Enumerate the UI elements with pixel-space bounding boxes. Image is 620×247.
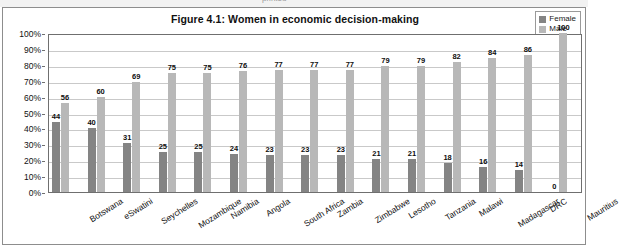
bar-male[interactable] xyxy=(417,66,425,192)
bar-value-label-male: 76 xyxy=(235,61,251,70)
bar-value-label-male: 69 xyxy=(128,72,144,81)
bar-group[interactable]: 0100 xyxy=(547,35,583,192)
y-axis-tick-mark xyxy=(42,193,45,194)
bar-value-label-male: 60 xyxy=(93,87,109,96)
y-axis-tick-label: 90% xyxy=(24,45,41,55)
bar-female[interactable] xyxy=(230,154,238,192)
y-axis-tick-label: 30% xyxy=(24,140,41,150)
bar-group[interactable]: 2377 xyxy=(298,35,334,192)
bar-value-label-male: 56 xyxy=(57,93,73,102)
bar-female[interactable] xyxy=(52,122,60,192)
x-axis-label-angola: Angola xyxy=(264,196,292,219)
bar-group[interactable]: 2179 xyxy=(369,35,405,192)
x-axis-label-mauritius: Mauritius xyxy=(585,196,620,223)
bar-group[interactable]: 2476 xyxy=(227,35,263,192)
x-axis-label-tanzania: Tanzania xyxy=(443,196,477,223)
y-axis: 0%10%20%30%40%50%60%70%80%90%100% xyxy=(3,34,45,193)
bar-value-label-male: 77 xyxy=(271,60,287,69)
bar-male[interactable] xyxy=(203,73,211,192)
y-axis-tick-mark xyxy=(42,82,45,83)
bar-group[interactable]: 2179 xyxy=(405,35,441,192)
y-axis-tick-label: 40% xyxy=(24,124,41,134)
x-axis-label-seychelles: Seychelles xyxy=(159,196,199,226)
y-axis-tick-label: 100% xyxy=(19,29,41,39)
bar-group[interactable]: 1486 xyxy=(512,35,548,192)
y-axis-tick-label: 80% xyxy=(24,61,41,71)
bar-male[interactable] xyxy=(97,97,105,192)
y-axis-tick-mark xyxy=(42,114,45,115)
bar-female[interactable] xyxy=(159,152,167,192)
bar-male[interactable] xyxy=(524,55,532,192)
y-axis-tick-label: 20% xyxy=(24,156,41,166)
bar-male[interactable] xyxy=(559,33,567,192)
bar-group[interactable]: 2377 xyxy=(334,35,370,192)
bar-female[interactable] xyxy=(123,143,131,192)
bar-value-label-male: 84 xyxy=(484,48,500,57)
bar-female[interactable] xyxy=(479,167,487,192)
x-axis: BotswanaeSwatiniSeychellesMozambiqueNami… xyxy=(48,194,582,246)
y-axis-tick-label: 70% xyxy=(24,77,41,87)
bar-value-label-male: 75 xyxy=(164,63,180,72)
y-axis-tick-mark xyxy=(42,161,45,162)
bar-female[interactable] xyxy=(372,159,380,192)
y-axis-tick-mark xyxy=(42,34,45,35)
y-axis-tick-label: 50% xyxy=(24,109,41,119)
bar-male[interactable] xyxy=(61,103,69,192)
y-axis-tick-mark xyxy=(42,50,45,51)
bar-value-label-male: 79 xyxy=(413,56,429,65)
bar-female[interactable] xyxy=(194,152,202,192)
bar-female[interactable] xyxy=(301,155,309,192)
y-axis-tick-label: 10% xyxy=(24,172,41,182)
bar-male[interactable] xyxy=(310,70,318,192)
bar-value-label-male: 75 xyxy=(199,63,215,72)
y-axis-tick-mark xyxy=(42,66,45,67)
bar-male[interactable] xyxy=(453,62,461,192)
y-axis-tick-label: 60% xyxy=(24,93,41,103)
bar-male[interactable] xyxy=(168,73,176,192)
bar-group[interactable]: 2575 xyxy=(156,35,192,192)
chart-container: Figure 4.1: Women in economic decision-m… xyxy=(2,7,586,245)
x-axis-label-eswatini: eSwatini xyxy=(122,196,155,222)
bar-male[interactable] xyxy=(346,70,354,192)
bar-female[interactable] xyxy=(88,128,96,192)
legend-swatch-icon xyxy=(539,26,546,33)
cut-off-header-text: printed xyxy=(262,0,286,3)
legend-swatch-icon xyxy=(539,16,546,23)
bar-value-label-male: 82 xyxy=(449,52,465,61)
bar-female[interactable] xyxy=(408,159,416,192)
bar-female[interactable] xyxy=(337,155,345,192)
bar-group[interactable]: 4060 xyxy=(85,35,121,192)
bar-value-label-male: 100 xyxy=(555,23,571,32)
y-axis-tick-mark xyxy=(42,145,45,146)
bar-group[interactable]: 1882 xyxy=(441,35,477,192)
y-axis-tick-label: 0% xyxy=(29,188,41,198)
bar-value-label-male: 86 xyxy=(520,45,536,54)
x-axis-label-lesotho: Lesotho xyxy=(407,196,438,221)
bar-male[interactable] xyxy=(132,82,140,192)
x-axis-label-botswana: Botswana xyxy=(87,196,124,224)
bar-male[interactable] xyxy=(488,58,496,192)
bar-female[interactable] xyxy=(444,163,452,192)
bar-value-label-male: 79 xyxy=(377,56,393,65)
plot-area: 4456406031692575257524762377237723772179… xyxy=(48,34,582,193)
bar-group[interactable]: 1684 xyxy=(476,35,512,192)
bar-group[interactable]: 2575 xyxy=(191,35,227,192)
bar-female[interactable] xyxy=(515,170,523,192)
y-axis-tick-mark xyxy=(42,98,45,99)
bar-male[interactable] xyxy=(275,70,283,192)
x-axis-label-malawi: Malawi xyxy=(477,196,505,218)
bar-value-label-male: 77 xyxy=(306,60,322,69)
cut-off-header-strip: printed xyxy=(0,0,588,7)
bar-group[interactable]: 2377 xyxy=(263,35,299,192)
bar-male[interactable] xyxy=(239,71,247,192)
x-axis-label-zimbabwe: Zimbabwe xyxy=(373,196,412,225)
chart-title: Figure 4.1: Women in economic decision-m… xyxy=(3,13,587,25)
bar-group[interactable]: 3169 xyxy=(120,35,156,192)
bar-value-label-male: 77 xyxy=(342,60,358,69)
y-axis-tick-mark xyxy=(42,177,45,178)
bar-female[interactable] xyxy=(266,155,274,192)
y-axis-tick-mark xyxy=(42,129,45,130)
bar-group[interactable]: 4456 xyxy=(49,35,85,192)
bar-male[interactable] xyxy=(381,66,389,192)
